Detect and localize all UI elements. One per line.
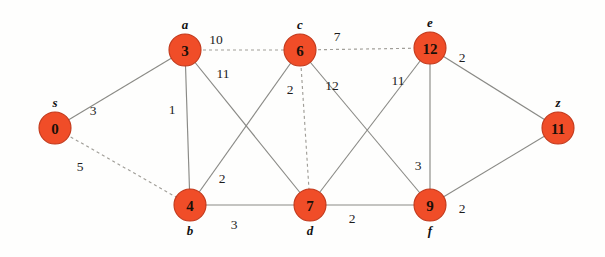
graph-canvas: 3510111232712112322 0s3a4b6c7d12e9f11z (0, 0, 605, 257)
edge-c-d (300, 50, 310, 205)
node-a[interactable]: 3a (169, 17, 201, 66)
node-label-c: c (297, 17, 303, 32)
edge-weight-a-b: 1 (169, 102, 176, 117)
nodes-group: 0s3a4b6c7d12e9f11z (39, 15, 574, 238)
edge-s-a (55, 50, 185, 128)
edge-weight-a-c: 10 (209, 32, 223, 47)
node-e[interactable]: 12e (414, 15, 446, 64)
edge-weight-s-a: 3 (90, 103, 97, 118)
edge-weight-b-c: 2 (219, 171, 226, 186)
node-z[interactable]: 11z (542, 95, 574, 144)
edge-a-b (185, 50, 190, 205)
edge-weight-d-f: 2 (349, 211, 356, 226)
node-label-f: f (428, 223, 434, 238)
node-label-a: a (182, 17, 189, 32)
node-label-s: s (51, 95, 57, 110)
edge-weight-b-d: 3 (231, 217, 238, 232)
node-label-z: z (554, 95, 561, 110)
node-c[interactable]: 6c (284, 17, 316, 66)
node-value-s: 0 (51, 121, 59, 137)
node-value-e: 12 (423, 41, 438, 57)
edge-c-e (300, 48, 430, 50)
edge-weights-group: 3510111232712112322 (77, 29, 466, 232)
node-value-z: 11 (551, 121, 565, 137)
edge-weight-a-d: 11 (217, 66, 230, 81)
node-d[interactable]: 7d (294, 189, 326, 238)
edge-weight-c-f: 12 (325, 78, 339, 93)
node-value-c: 6 (296, 43, 304, 59)
node-value-f: 9 (426, 198, 434, 214)
edge-weight-e-f: 3 (415, 158, 422, 173)
node-b[interactable]: 4b (174, 189, 206, 238)
graph-diagram: 3510111232712112322 0s3a4b6c7d12e9f11z (0, 0, 605, 257)
node-value-b: 4 (186, 198, 194, 214)
edge-weight-c-d: 2 (287, 82, 294, 97)
edges-group (55, 48, 558, 205)
edge-a-d (185, 50, 310, 205)
edge-weight-e-z: 2 (459, 50, 466, 65)
node-value-d: 7 (306, 198, 314, 214)
node-label-b: b (187, 223, 194, 238)
edge-e-z (430, 48, 558, 128)
edge-s-b (55, 128, 190, 205)
node-label-e: e (427, 15, 433, 30)
edge-b-c (190, 50, 300, 205)
node-s[interactable]: 0s (39, 95, 71, 144)
edge-weight-c-e: 7 (334, 29, 341, 44)
node-f[interactable]: 9f (414, 189, 446, 238)
edge-weight-d-e: 11 (392, 73, 405, 88)
edge-f-z (430, 128, 558, 205)
edge-weight-f-z: 2 (459, 201, 466, 216)
node-value-a: 3 (181, 43, 189, 59)
edge-weight-s-b: 5 (77, 159, 84, 174)
node-label-d: d (307, 223, 314, 238)
edge-d-e (310, 48, 430, 205)
